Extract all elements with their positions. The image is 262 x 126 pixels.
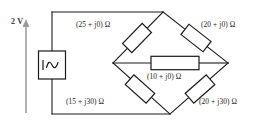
label-top-right-impedance: (20 + j0) Ω — [201, 21, 235, 28]
label-bottom-left-impedance: (15 + j30) Ω — [66, 98, 104, 105]
circuit-diagram: 2 V (25 + j0) Ω (20 + j0) Ω (10 + j0) Ω … — [0, 0, 262, 126]
circuit-schematic-canvas — [0, 0, 262, 126]
label-bottom-right-impedance: (20 + j30) Ω — [199, 98, 237, 105]
label-top-left-impedance: (25 + j0) Ω — [76, 21, 110, 28]
ac-source-symbol — [39, 51, 66, 79]
resistor-top-left — [123, 23, 152, 52]
label-bridge-middle-impedance: (10 + j0) Ω — [147, 73, 181, 80]
voltage-arrow — [23, 19, 30, 113]
source-voltage-label: 2 V — [11, 18, 23, 26]
resistor-bridge-middle — [151, 56, 199, 69]
